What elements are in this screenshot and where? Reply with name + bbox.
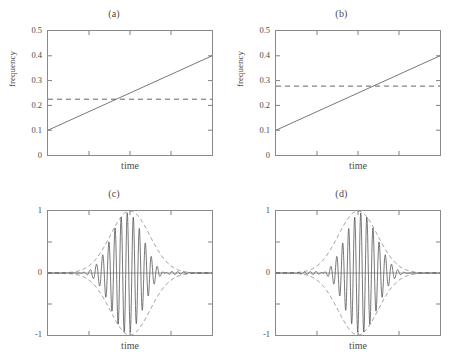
panel-a-ytick-0.5: 0.5 <box>16 25 42 35</box>
panel-c-ytick-1: 1 <box>16 205 42 215</box>
panel-b-title: (b) <box>228 8 455 19</box>
panel-b-ylabel: frequency <box>235 39 245 99</box>
panel-a-ytick-0.3: 0.3 <box>16 75 42 85</box>
panel-c-plot-area <box>47 210 213 336</box>
figure-canvas: (a) frequency 0.5 0.4 0.3 0.2 0.1 0 <box>0 0 455 359</box>
panel-d-ytick-0: 0 <box>244 267 270 277</box>
panel-c-envelope-upper <box>48 211 212 273</box>
panel-d-xlabel: time <box>275 340 441 351</box>
panel-b-xlabel: time <box>275 160 441 171</box>
panel-a-ytick-0.2: 0.2 <box>16 100 42 110</box>
panel-b-plot-area <box>275 30 441 156</box>
panel-a-ytick-0.4: 0.4 <box>16 50 42 60</box>
panel-b-ytick-0.5: 0.5 <box>244 25 270 35</box>
panel-d-ytick-minus1: -1 <box>244 329 270 339</box>
panel-a-frequency-line <box>48 56 212 130</box>
panel-d: (d) 1 0 -1 time <box>228 180 455 359</box>
panel-d-svg <box>276 211 440 335</box>
panel-b-ytick-0: 0 <box>244 150 270 160</box>
panel-b: (b) frequency 0.5 0.4 0.3 0.2 0.1 0 <box>228 0 455 180</box>
panel-c-ytick-minus1: -1 <box>16 329 42 339</box>
panel-a-plot-area <box>47 30 213 156</box>
panel-d-title: (d) <box>228 188 455 199</box>
panel-a-ytick-0.1: 0.1 <box>16 125 42 135</box>
panel-d-envelope-upper <box>276 211 440 273</box>
panel-b-ytick-0.2: 0.2 <box>244 100 270 110</box>
panel-a-ylabel: frequency <box>7 39 17 99</box>
panel-d-plot-area <box>275 210 441 336</box>
panel-a-xlabel: time <box>47 160 213 171</box>
panel-c-svg <box>48 211 212 335</box>
panel-b-ytick-0.4: 0.4 <box>244 50 270 60</box>
panel-c-xlabel: time <box>47 340 213 351</box>
panel-a: (a) frequency 0.5 0.4 0.3 0.2 0.1 0 <box>0 0 228 180</box>
panel-c: (c) 1 0 -1 time <box>0 180 228 359</box>
panel-c-ytick-0: 0 <box>16 267 42 277</box>
panel-a-svg <box>48 31 212 155</box>
panel-b-ytick-0.1: 0.1 <box>244 125 270 135</box>
panel-c-title: (c) <box>0 188 228 199</box>
panel-b-frequency-line <box>276 56 440 130</box>
panel-a-ytick-0: 0 <box>16 150 42 160</box>
panel-b-svg <box>276 31 440 155</box>
panel-d-ytick-1: 1 <box>244 205 270 215</box>
panel-b-ytick-0.3: 0.3 <box>244 75 270 85</box>
panel-a-title: (a) <box>0 8 228 19</box>
